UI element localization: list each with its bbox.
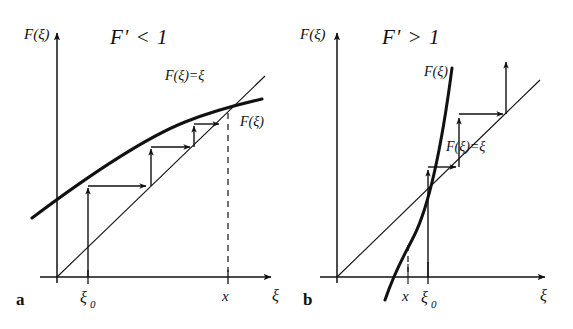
svg-text:0: 0 (431, 298, 437, 310)
svg-text:F(ξ)=ξ: F(ξ)=ξ (445, 139, 485, 155)
svg-text:F(ξ): F(ξ) (23, 26, 50, 43)
panel-b-y-axis-label: F(ξ) (299, 26, 326, 43)
panel-a-letter: a (16, 290, 25, 309)
panel-a-condition-title: F' < 1 (109, 25, 169, 49)
panel-b-curve-label: F(ξ) (423, 64, 448, 80)
panel-b-x-axis-label: ξ (540, 287, 547, 304)
svg-text:F' > 1: F' > 1 (381, 25, 441, 49)
panel-b: F(ξ) F' > 1 F(ξ) F(ξ)=ξ ξ x ξ 0 b (299, 25, 547, 310)
panel-a-xtick-label-x: x (221, 288, 229, 304)
panel-a-curve-label: F(ξ) (239, 114, 264, 130)
svg-text:ξ: ξ (540, 287, 547, 304)
svg-text:F(ξ): F(ξ) (423, 64, 448, 80)
svg-text:F(ξ): F(ξ) (299, 26, 326, 43)
panel-a-diagonal-label: F(ξ)=ξ (164, 68, 204, 84)
panel-b-condition-title: F' > 1 (381, 25, 441, 49)
panel-b-diagonal-line (337, 80, 540, 277)
figure-root: F(ξ) F' < 1 F(ξ)=ξ F(ξ) ξ ξ 0 x a (0, 0, 573, 329)
panel-b-function-curve (385, 68, 452, 300)
svg-text:F' < 1: F' < 1 (109, 25, 169, 49)
svg-text:b: b (303, 290, 312, 309)
panel-a-y-axis-label: F(ξ) (23, 26, 50, 43)
panel-b-letter: b (303, 290, 312, 309)
panel-a-xtick-label-xi0: ξ 0 (80, 289, 96, 310)
svg-text:x: x (401, 288, 409, 304)
svg-text:0: 0 (90, 298, 96, 310)
svg-text:ξ: ξ (272, 287, 279, 304)
svg-text:ξ: ξ (421, 289, 428, 306)
panel-b-xtick-label-x: x (401, 288, 409, 304)
panel-a: F(ξ) F' < 1 F(ξ)=ξ F(ξ) ξ ξ 0 x a (16, 25, 279, 310)
panel-a-x-axis-label: ξ (272, 287, 279, 304)
svg-text:F(ξ): F(ξ) (239, 114, 264, 130)
svg-text:F(ξ)=ξ: F(ξ)=ξ (164, 68, 204, 84)
svg-text:ξ: ξ (80, 289, 87, 306)
panel-b-xtick-label-xi0: ξ 0 (421, 289, 437, 310)
svg-text:a: a (16, 290, 25, 309)
svg-text:x: x (221, 288, 229, 304)
cobweb-diagram-svg: F(ξ) F' < 1 F(ξ)=ξ F(ξ) ξ ξ 0 x a (0, 0, 573, 329)
panel-b-diagonal-label: F(ξ)=ξ (445, 139, 485, 155)
